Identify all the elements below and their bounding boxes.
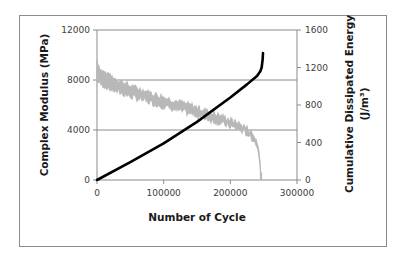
right-tick-label: 1600	[305, 25, 328, 35]
left-tick-label: 4000	[67, 125, 90, 135]
right-tick-label: 400	[305, 138, 322, 148]
dual-axis-line-chart: 04000800012000 040080012001600 010000020…	[0, 0, 407, 260]
left-axis-tick-labels: 04000800012000	[61, 25, 90, 185]
x-tick-label: 100000	[146, 188, 181, 198]
complex-modulus-series	[97, 60, 261, 180]
left-tick-label: 0	[84, 175, 90, 185]
cumulative-dissipated-energy-series	[97, 53, 263, 180]
left-tick-label: 8000	[67, 75, 90, 85]
x-tick-label: 0	[94, 188, 100, 198]
axes	[93, 30, 301, 184]
x-tick-label: 300000	[280, 188, 315, 198]
x-tick-label: 200000	[213, 188, 248, 198]
right-axis-tick-labels: 040080012001600	[305, 25, 328, 185]
right-axis-title-line1: Cumulative Dissipated Energy	[343, 15, 355, 193]
right-tick-label: 800	[305, 100, 322, 110]
right-tick-label: 0	[305, 175, 311, 185]
x-axis-tick-labels: 0100000200000300000	[94, 188, 314, 198]
right-tick-label: 1200	[305, 63, 328, 73]
left-axis-title: Complex Modulus (MPa)	[38, 34, 50, 177]
right-axis-title-line2: (J/m³)	[358, 88, 370, 121]
left-tick-label: 12000	[61, 25, 90, 35]
x-axis-title: Number of Cycle	[148, 211, 246, 223]
series-layer	[97, 53, 263, 180]
